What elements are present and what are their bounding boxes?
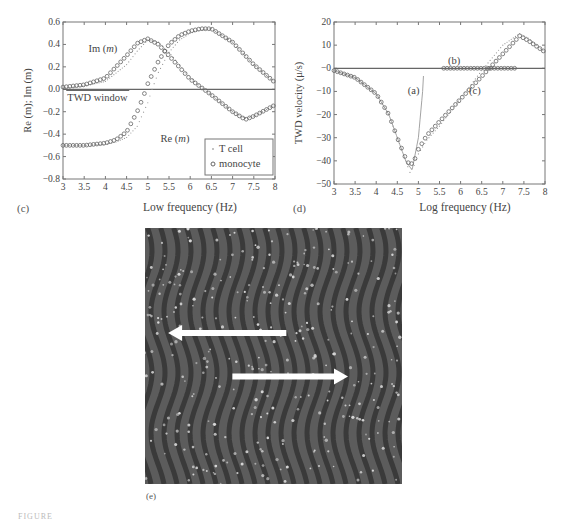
- svg-text:6: 6: [458, 187, 463, 197]
- svg-text:0.6: 0.6: [48, 17, 60, 27]
- svg-text:7.5: 7.5: [518, 187, 530, 197]
- svg-text:8: 8: [543, 187, 548, 197]
- svg-text:0.2: 0.2: [48, 62, 60, 72]
- panel-label-d: (d): [293, 202, 306, 214]
- svg-text:(c): (c): [469, 85, 481, 97]
- svg-text:(b): (b): [448, 55, 461, 67]
- svg-text:0.4: 0.4: [48, 39, 60, 49]
- svg-text:8: 8: [273, 182, 278, 192]
- chart-d-xlabel: Log frequency (Hz): [375, 201, 555, 213]
- svg-text:(a): (a): [408, 85, 420, 97]
- svg-text:3.5: 3.5: [78, 182, 90, 192]
- svg-text:6.5: 6.5: [205, 182, 217, 192]
- svg-text:5.5: 5.5: [434, 187, 446, 197]
- svg-text:Re (m); Im (m): Re (m); Im (m): [22, 68, 34, 133]
- svg-text:7: 7: [230, 182, 235, 192]
- svg-text:3: 3: [332, 187, 337, 197]
- micrograph-image: [145, 228, 402, 484]
- chart-c-re-im: 33.544.555.566.577.580.60.40.20.0−0.2−0.…: [0, 0, 290, 200]
- svg-text:−50: −50: [316, 179, 331, 189]
- svg-text:−20: −20: [316, 110, 331, 120]
- svg-text:T cell: T cell: [219, 143, 243, 154]
- svg-text:4: 4: [103, 182, 108, 192]
- svg-text:7: 7: [500, 187, 505, 197]
- svg-text:monocyte: monocyte: [219, 158, 261, 169]
- svg-text:20: 20: [322, 17, 332, 27]
- svg-text:3: 3: [61, 182, 66, 192]
- svg-text:4: 4: [374, 187, 379, 197]
- svg-text:−0: −0: [321, 63, 331, 73]
- svg-text:−30: −30: [316, 133, 331, 143]
- svg-text:7.5: 7.5: [248, 182, 260, 192]
- panel-label-e: (e): [146, 491, 156, 501]
- svg-text:−0.8: −0.8: [43, 174, 60, 184]
- svg-text:−40: −40: [316, 156, 331, 166]
- svg-text:4.5: 4.5: [121, 182, 133, 192]
- panel-label-c: (c): [17, 202, 29, 214]
- svg-text:Im (m): Im (m): [88, 43, 117, 55]
- svg-text:3.5: 3.5: [349, 187, 361, 197]
- chart-d-twd-velocity: 33.544.555.566.577.582010−0−10−20−30−40−…: [280, 0, 564, 200]
- svg-text:5: 5: [145, 182, 150, 192]
- svg-text:6: 6: [188, 182, 193, 192]
- svg-text:6.5: 6.5: [476, 187, 488, 197]
- chart-c-xlabel: Low frequency (Hz): [95, 201, 285, 213]
- svg-text:10: 10: [322, 40, 332, 50]
- svg-text:TWD velocity (μ/s): TWD velocity (μ/s): [293, 61, 305, 144]
- svg-text:−0.4: −0.4: [43, 129, 60, 139]
- svg-text:4.5: 4.5: [391, 187, 403, 197]
- svg-text:−10: −10: [316, 86, 331, 96]
- svg-text:−0.2: −0.2: [43, 107, 60, 117]
- svg-text:−0.6: −0.6: [43, 152, 60, 162]
- svg-text:TWD window: TWD window: [67, 92, 128, 103]
- svg-text:5.5: 5.5: [163, 182, 175, 192]
- svg-text:5: 5: [416, 187, 421, 197]
- svg-text:Re (m): Re (m): [161, 133, 190, 145]
- svg-text:0.0: 0.0: [48, 84, 60, 94]
- figure-caption: FIGURE: [18, 512, 53, 521]
